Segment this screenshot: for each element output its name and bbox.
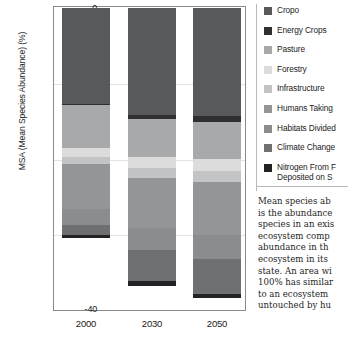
bar-segment: [62, 225, 110, 235]
bar-segment: [62, 164, 110, 209]
y-tick-label: -40: [57, 304, 97, 314]
legend-swatch-icon: [264, 46, 272, 54]
bar-segment: [62, 105, 110, 147]
bar-segment: [193, 235, 241, 259]
legend-item-5[interactable]: Humans Taking: [257, 102, 348, 122]
legend-label: Nitrogen From FDeposited on S: [277, 161, 336, 182]
legend-label: Forestry: [277, 63, 307, 74]
legend-item-7[interactable]: Climate Change: [257, 141, 348, 161]
description-line-9: untouched by hu: [258, 300, 348, 312]
legend-item-1[interactable]: Energy Crops: [257, 24, 348, 44]
description-line-7: 100% has similar: [258, 277, 348, 289]
description-line-2: species in an exis: [258, 219, 348, 231]
legend-label: Energy Crops: [277, 24, 327, 35]
x-tick-label-2030: 2030: [122, 318, 182, 329]
bar-segment: [62, 148, 110, 158]
description-line-1: is the abundance: [258, 208, 348, 220]
bar-segment: [62, 209, 110, 225]
legend-swatch-icon: [264, 144, 272, 152]
description-text: Mean species abis the abundancespecies i…: [258, 196, 348, 312]
bar-segment: [193, 294, 241, 299]
x-tick-label-2050: 2050: [187, 318, 247, 329]
bar-segment: [128, 250, 176, 282]
bar-segment: [193, 122, 241, 159]
bar-segment: [128, 228, 176, 250]
legend-label: Habitats Divided: [277, 122, 336, 133]
bar-segment: [128, 178, 176, 228]
legend-swatch-icon: [264, 125, 272, 133]
legend-item-0[interactable]: Cropo: [257, 4, 348, 24]
legend-label: Pasture: [277, 43, 305, 54]
bar-segment: [193, 159, 241, 171]
bar-segment: [193, 182, 241, 235]
bar-2030[interactable]: [128, 8, 176, 286]
legend-label: Humans Taking: [277, 102, 333, 113]
bar-segment: [128, 157, 176, 168]
legend-swatch-icon: [264, 66, 272, 74]
chart-page: MSA (Mean Species Abundance) (%) 0-10-20…: [0, 0, 348, 353]
bar-segment: [62, 235, 110, 238]
description-line-4: abundance in th: [258, 242, 348, 254]
bar-segment: [128, 8, 176, 115]
legend-item-4[interactable]: Infrastructure: [257, 82, 348, 102]
description-line-3: ecosystem comp: [258, 231, 348, 243]
bar-segment: [193, 259, 241, 294]
legend-item-3[interactable]: Forestry: [257, 63, 348, 83]
bar-segment: [128, 168, 176, 179]
x-tick-label-2000: 2000: [56, 318, 116, 329]
legend-swatch-icon: [264, 85, 272, 93]
legend-swatch-icon: [264, 164, 272, 172]
legend-swatch-icon: [264, 27, 272, 35]
bar-2000[interactable]: [62, 8, 110, 238]
bar-segment: [128, 281, 176, 286]
bar-segment: [193, 8, 241, 116]
legend-item-6[interactable]: Habitats Divided: [257, 122, 348, 142]
bar-2050[interactable]: [193, 8, 241, 298]
description-line-6: state. An area wi: [258, 266, 348, 278]
description-line-8: to an ecosystem: [258, 289, 348, 301]
legend-item-8[interactable]: Nitrogen From FDeposited on S: [257, 161, 348, 191]
legend: CropoEnergy CropsPastureForestryInfrastr…: [256, 4, 348, 191]
legend-swatch-icon: [264, 7, 272, 15]
y-axis-title: MSA (Mean Species Abundance) (%): [17, 21, 27, 181]
legend-label: Cropo: [277, 4, 299, 15]
bar-segment: [62, 8, 110, 104]
bar-segment: [193, 171, 241, 182]
legend-item-2[interactable]: Pasture: [257, 43, 348, 63]
legend-label: Climate Change: [277, 141, 335, 152]
description-line-5: ecosystem in its: [258, 254, 348, 266]
bar-segment: [62, 157, 110, 164]
legend-label-line2: Deposited on S: [277, 172, 336, 182]
legend-label: Infrastructure: [277, 82, 324, 93]
legend-swatch-icon: [264, 105, 272, 113]
bar-segment: [128, 119, 176, 157]
description-line-0: Mean species ab: [258, 196, 348, 208]
